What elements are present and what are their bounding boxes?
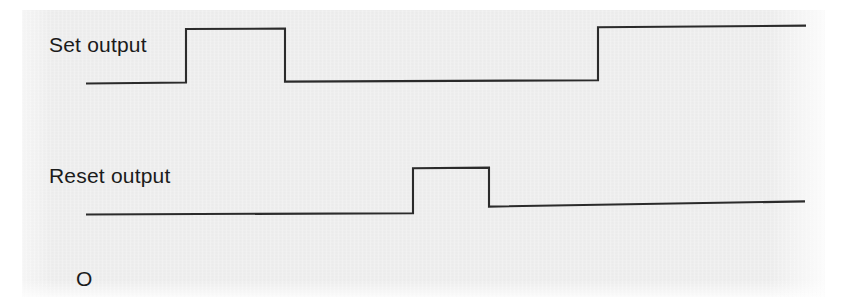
figure-root: Set output Reset output O bbox=[0, 0, 851, 308]
timing-diagram: Set output Reset output O bbox=[0, 0, 851, 308]
corner-mark-o: O bbox=[76, 267, 92, 290]
set-output-waveform bbox=[86, 26, 806, 84]
set-output-label: Set output bbox=[49, 33, 147, 56]
reset-output-label: Reset output bbox=[49, 164, 170, 187]
reset-output-waveform bbox=[86, 168, 805, 215]
